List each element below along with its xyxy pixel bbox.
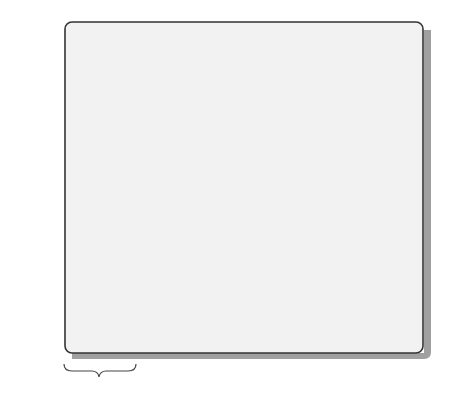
oscilloscope-diagram bbox=[0, 0, 449, 408]
phase-brace bbox=[64, 364, 136, 377]
scope-screen bbox=[65, 22, 423, 353]
